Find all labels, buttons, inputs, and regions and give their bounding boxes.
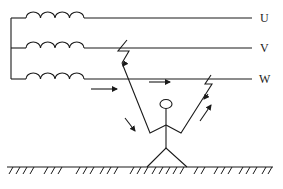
phase-v-line xyxy=(11,42,252,48)
lightning-break-icon xyxy=(118,40,129,63)
arrow-icon xyxy=(200,105,211,121)
stick-figure-legs xyxy=(147,148,187,167)
coil-icon xyxy=(26,73,84,79)
lightning-break-icon xyxy=(205,75,212,92)
three-phase-shock-diagram xyxy=(0,0,283,189)
ground-hatch-icon xyxy=(9,167,272,174)
phase-u-line xyxy=(11,12,252,18)
coil-icon xyxy=(26,12,84,18)
arrow-icon xyxy=(123,62,126,66)
stick-figure-right-arm xyxy=(166,92,207,133)
stick-figure-head xyxy=(160,100,172,109)
phase-label-w: W xyxy=(259,73,270,85)
arrow-icon xyxy=(125,118,135,131)
phase-label-v: V xyxy=(260,42,269,54)
coil-icon xyxy=(26,42,84,48)
phase-label-u: U xyxy=(260,12,269,24)
phase-w-line xyxy=(11,73,252,79)
